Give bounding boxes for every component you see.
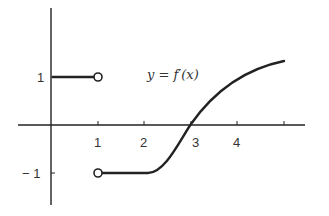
function-label: y = f′(x) bbox=[146, 67, 199, 82]
graph: 1 2 3 4 1 − 1 y = f′(x) bbox=[0, 0, 329, 216]
x-tick-label-3: 3 bbox=[192, 135, 199, 150]
open-circle-lower bbox=[94, 169, 102, 177]
x-tick-label-4: 4 bbox=[233, 135, 240, 150]
open-circle-upper bbox=[94, 73, 102, 81]
x-tick-label-1: 1 bbox=[94, 135, 101, 150]
x-tick-label-2: 2 bbox=[140, 135, 147, 150]
y-tick-label-minus-1: − 1 bbox=[22, 166, 40, 181]
y-tick-label-1: 1 bbox=[37, 70, 44, 85]
